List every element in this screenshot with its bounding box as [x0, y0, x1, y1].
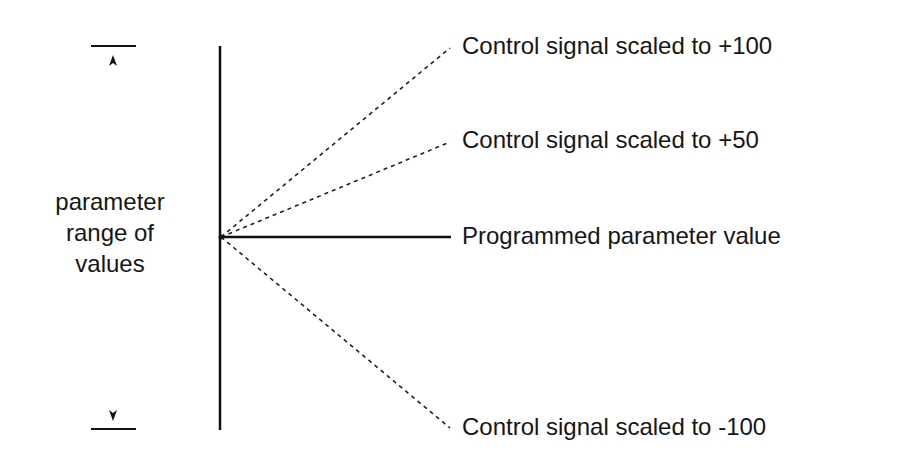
range-label-line: range of — [30, 217, 190, 248]
line-plus100 — [221, 48, 450, 237]
range-label-line: values — [30, 248, 190, 279]
origin-point — [219, 235, 224, 240]
line-plus50 — [221, 142, 450, 237]
upper-limit-marker — [91, 46, 136, 66]
label-plus100: Control signal scaled to +100 — [462, 32, 772, 60]
lower-limit-marker — [91, 410, 136, 429]
label-plus50: Control signal scaled to +50 — [462, 126, 759, 154]
arrow-up-icon — [109, 55, 117, 66]
label-minus100: Control signal scaled to -100 — [462, 413, 766, 441]
arrow-down-icon — [109, 410, 117, 421]
line-minus100 — [221, 237, 450, 428]
parameter-range-label: parameter range of values — [30, 186, 190, 279]
label-programmed: Programmed parameter value — [462, 222, 781, 250]
range-label-line: parameter — [30, 186, 190, 217]
